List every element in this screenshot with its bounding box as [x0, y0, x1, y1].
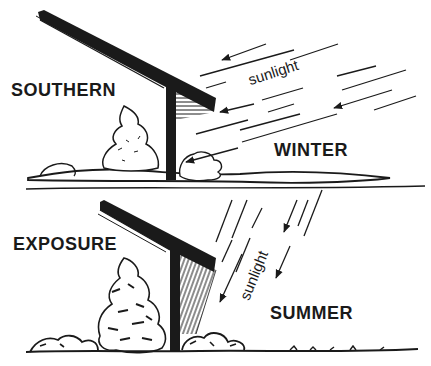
winter-shrub [180, 152, 222, 181]
label-summer: SUMMER [270, 303, 353, 324]
summer-wall [170, 248, 180, 352]
summer-roof-overhang [100, 200, 216, 272]
summer-tree [99, 258, 166, 353]
diagram-canvas [0, 0, 431, 366]
label-southern: SOUTHERN [11, 80, 116, 101]
winter-wall [166, 84, 176, 180]
winter-tree [103, 106, 159, 171]
summer-bushes-right [182, 333, 244, 350]
label-exposure: EXPOSURE [13, 234, 117, 255]
label-winter: WINTER [274, 140, 348, 161]
summer-sunlight-rays [216, 190, 322, 302]
summer-panel [26, 190, 418, 353]
summer-bushes-left [30, 336, 98, 352]
